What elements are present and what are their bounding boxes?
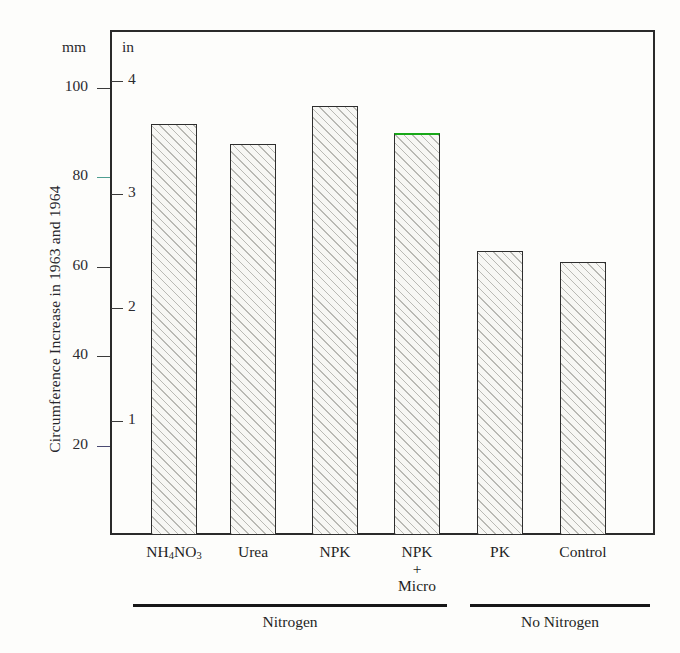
bar-urea[interactable]	[230, 144, 276, 535]
y-axis-unit-in: in	[122, 38, 134, 56]
bar-pk[interactable]	[477, 251, 523, 535]
y-tick-in-2	[111, 308, 123, 309]
bar-control[interactable]	[560, 262, 606, 535]
y-tick-in-3	[111, 194, 123, 195]
group-rule-no-nitrogen	[470, 604, 650, 607]
y-tick-mm-20	[97, 446, 110, 447]
y-tick-label-in-1: 1	[128, 410, 136, 428]
chart-canvas: Circumference Increase in 1963 and 1964 …	[0, 0, 680, 653]
y-tick-mm-80	[97, 177, 110, 178]
y-tick-label-in-2: 2	[128, 297, 136, 315]
y-tick-mm-40	[97, 356, 110, 357]
group-label-nitrogen: Nitrogen	[133, 613, 447, 631]
group-rule-nitrogen	[133, 604, 447, 607]
y-axis-unit-mm: mm	[62, 38, 86, 56]
y-tick-label-mm-80: 80	[42, 166, 88, 184]
y-tick-label-mm-40: 40	[42, 345, 88, 363]
bar-npk[interactable]	[312, 106, 358, 535]
y-tick-in-4	[111, 81, 123, 82]
y-tick-label-mm-20: 20	[42, 435, 88, 453]
y-tick-label-mm-60: 60	[42, 256, 88, 274]
group-label-no-nitrogen: No Nitrogen	[470, 613, 650, 631]
y-tick-mm-100	[97, 88, 110, 89]
bar-npk-micro[interactable]	[394, 133, 440, 535]
bar-nh4no3[interactable]	[151, 124, 197, 535]
y-tick-label-mm-100: 100	[42, 77, 88, 95]
y-tick-in-1	[111, 421, 123, 422]
y-tick-label-in-4: 4	[128, 70, 136, 88]
y-tick-label-in-3: 3	[128, 183, 136, 201]
x-label-control: Control	[523, 543, 643, 560]
y-tick-mm-60	[97, 267, 110, 268]
